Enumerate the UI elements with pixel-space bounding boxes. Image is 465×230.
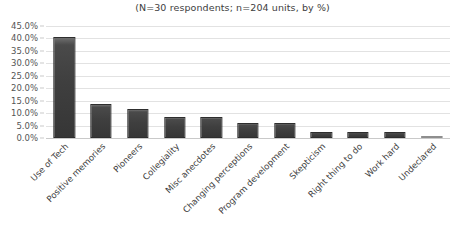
- bar-slot: [266, 26, 303, 138]
- bar-slot: [46, 26, 83, 138]
- y-axis-tick-mark: [40, 26, 44, 27]
- y-axis-tick-mark: [40, 88, 44, 89]
- bar-slot: [230, 26, 267, 138]
- x-axis-label-slot: Right thing to do: [340, 140, 377, 228]
- y-axis-tick-mark: [40, 125, 44, 126]
- bar: [384, 132, 405, 138]
- y-axis-tick-mark: [40, 100, 44, 101]
- bar: [311, 132, 332, 138]
- bar: [348, 132, 369, 138]
- bar-slot: [193, 26, 230, 138]
- y-axis-tick-label: 5.0%: [16, 121, 38, 130]
- x-axis-label-slot: Work hard: [377, 140, 414, 228]
- x-axis-label-slot: Program development: [266, 140, 303, 228]
- y-axis-tick-label: 10.0%: [11, 109, 38, 118]
- bar-slot: [340, 26, 377, 138]
- x-axis-label-slot: Positive memories: [83, 140, 120, 228]
- x-axis-label-slot: Undeclared: [413, 140, 450, 228]
- y-axis-tick-label: 45.0%: [11, 22, 38, 31]
- y-axis-tick-mark: [40, 38, 44, 39]
- bar: [90, 104, 111, 138]
- y-axis-tick-mark: [40, 50, 44, 51]
- bar-slot: [83, 26, 120, 138]
- bar: [54, 37, 75, 138]
- bar-slot: [119, 26, 156, 138]
- bar: [274, 123, 295, 138]
- chart-title: (N=30 respondents; n=204 units, by %): [0, 2, 465, 13]
- y-axis: 45.0%40.0%35.0%30.0%25.0%20.0%15.0%10.0%…: [0, 26, 44, 138]
- y-axis-tick-label: 0.0%: [16, 134, 38, 143]
- y-axis-tick-label: 30.0%: [11, 59, 38, 68]
- y-axis-tick-mark: [40, 113, 44, 114]
- bar-slot: [303, 26, 340, 138]
- y-axis-tick-label: 40.0%: [11, 34, 38, 43]
- bar: [127, 109, 148, 138]
- bar: [164, 117, 185, 138]
- y-axis-tick-label: 35.0%: [11, 47, 38, 56]
- bar: [237, 123, 258, 138]
- y-axis-tick-mark: [40, 63, 44, 64]
- bars-layer: [46, 26, 450, 138]
- y-axis-tick-label: 15.0%: [11, 96, 38, 105]
- y-axis-tick-mark: [40, 138, 44, 139]
- bar: [201, 117, 222, 138]
- bar-chart: (N=30 respondents; n=204 units, by %) 45…: [0, 0, 465, 230]
- bar-slot: [156, 26, 193, 138]
- bar-slot: [413, 26, 450, 138]
- bar: [421, 136, 442, 138]
- axis-baseline: [46, 138, 450, 139]
- y-axis-tick-mark: [40, 75, 44, 76]
- x-axis-label-slot: Pioneers: [119, 140, 156, 228]
- y-axis-tick-label: 25.0%: [11, 72, 38, 81]
- x-axis-labels: Use of TechPositive memoriesPioneersColl…: [46, 140, 450, 228]
- bar-slot: [377, 26, 414, 138]
- y-axis-tick-label: 20.0%: [11, 84, 38, 93]
